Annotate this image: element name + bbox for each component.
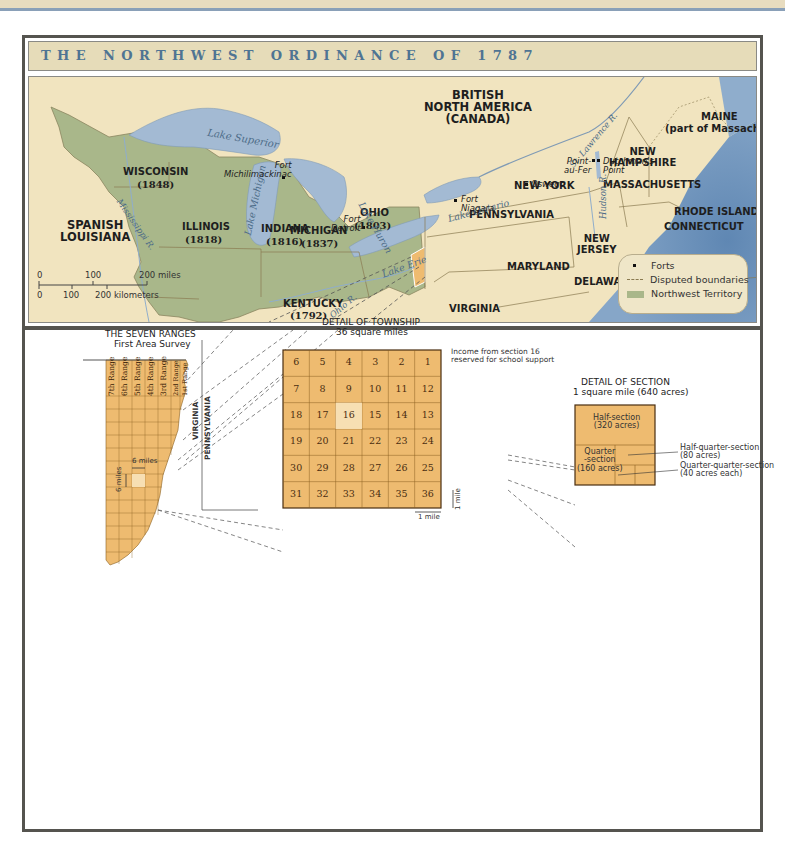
township-grid — [283, 350, 441, 508]
label-indiana: INDIANA — [261, 224, 309, 235]
range-label: 7th Range — [108, 357, 116, 396]
label-inset-virginia: VIRGINIA — [192, 402, 200, 440]
label-oswego: Oswego — [531, 180, 565, 189]
township-highlight — [132, 474, 145, 487]
scale-miles-200: 200 miles — [139, 271, 181, 280]
township-section-33: 33 — [336, 488, 362, 499]
township-section-28: 28 — [336, 462, 362, 473]
township-note: Income from section 16 reserved for scho… — [451, 348, 554, 364]
township-section-27: 27 — [362, 462, 388, 473]
label-maryland: MARYLAND — [507, 262, 570, 273]
township-section-29: 29 — [309, 462, 335, 473]
label-spanish-louisiana: SPANISH LOUISIANA — [60, 219, 130, 243]
label-illinois: ILLINOIS — [182, 222, 230, 233]
label-connecticut: CONNECTICUT — [664, 222, 744, 233]
label-inset-pennsylvania: PENNSYLVANIA — [204, 396, 212, 460]
label-dutchmans-point: Dutchman's Point — [603, 157, 654, 175]
label-fort-michilimackinac: Fort Michilimackinac — [224, 161, 292, 179]
map-figure: THE NORTHWEST ORDINANCE OF 1787 — [22, 35, 763, 832]
label-maine: MAINE — [701, 112, 738, 123]
section-subtitle: 1 square mile (640 acres) — [573, 388, 689, 397]
township-section-9: 9 — [336, 383, 362, 394]
township-section-32: 32 — [309, 488, 335, 499]
township-section-34: 34 — [362, 488, 388, 499]
township-section-25: 25 — [415, 462, 441, 473]
label-six-miles-h: 6 miles — [132, 458, 157, 465]
range-label: 5th Range — [134, 357, 142, 396]
township-section-3: 3 — [362, 356, 388, 367]
range-label: 2nd Range — [173, 360, 180, 396]
legend-forts-label: Forts — [651, 260, 675, 271]
label-massachusetts: MASSACHUSETTS — [603, 180, 701, 191]
legend-disputed-label: Disputed boundaries — [650, 274, 749, 285]
top-strip — [0, 0, 785, 11]
township-section-22: 22 — [362, 435, 388, 446]
survey-insets: THE SEVEN RANGES First Area Survey 7th R… — [28, 330, 757, 826]
township-section-36: 36 — [415, 488, 441, 499]
seven-ranges-subtitle: First Area Survey — [114, 340, 191, 349]
label-illinois-year: (1818) — [185, 235, 222, 246]
label-one-mile-v: 1 mile — [455, 488, 462, 510]
legend-disputed: Disputed boundaries — [627, 274, 749, 285]
map-legend: Forts Disputed boundaries Northwest Terr… — [618, 254, 748, 314]
township-section-16: 16 — [336, 409, 362, 420]
label-half-section: Half-section (320 acres) — [593, 414, 640, 431]
label-one-mile-h: 1 mile — [418, 514, 440, 521]
green-swatch-icon — [627, 291, 644, 298]
township-section-19: 19 — [283, 435, 309, 446]
scale-miles-0: 0 — [37, 271, 42, 280]
label-fort-niagara: Fort Niagara — [461, 195, 494, 213]
township-section-15: 15 — [362, 409, 388, 420]
scale-miles-100: 100 — [85, 271, 101, 280]
township-section-4: 4 — [336, 356, 362, 367]
township-section-7: 7 — [283, 383, 309, 394]
label-point-au-fer: Point- au-Fer — [564, 157, 591, 175]
township-section-31: 31 — [283, 488, 309, 499]
legend-territory: Northwest Territory — [627, 288, 742, 299]
township-section-23: 23 — [388, 435, 414, 446]
label-michigan-year: (1837) — [301, 239, 338, 250]
label-british-north-america: BRITISH NORTH AMERICA (CANADA) — [424, 89, 532, 125]
label-wisconsin: WISCONSIN — [123, 167, 188, 178]
dashed-line-icon — [627, 279, 643, 280]
fort-square-icon — [633, 264, 636, 267]
label-wisconsin-year: (1848) — [137, 180, 174, 191]
label-new-jersey: NEW JERSEY — [577, 234, 617, 255]
township-section-5: 5 — [309, 356, 335, 367]
township-section-30: 30 — [283, 462, 309, 473]
township-section-2: 2 — [388, 356, 414, 367]
point-au-fer-marker — [592, 159, 595, 162]
label-virginia: VIRGINIA — [449, 304, 500, 315]
township-section-24: 24 — [415, 435, 441, 446]
township-section-13: 13 — [415, 409, 441, 420]
legend-territory-label: Northwest Territory — [651, 288, 742, 299]
dutchmans-point-marker — [597, 159, 600, 162]
label-six-miles-v: 6 miles — [116, 467, 123, 492]
label-quarter-section: Quarter -section (160 acres) — [577, 448, 623, 473]
label-quarter-quarter-section: Quarter-quarter-section (40 acres each) — [680, 462, 774, 479]
township-section-1: 1 — [415, 356, 441, 367]
main-map: BRITISH NORTH AMERICA (CANADA) SPANISH L… — [28, 76, 757, 323]
label-half-quarter-section: Half-quarter-section (80 acres) — [680, 444, 759, 461]
scale-km-100: 100 — [63, 291, 79, 300]
legend-forts: Forts — [627, 260, 675, 271]
range-label: 1st Range — [182, 363, 189, 396]
township-section-8: 8 — [309, 383, 335, 394]
figure-title: THE NORTHWEST ORDINANCE OF 1787 — [41, 48, 539, 63]
label-rhode-island: RHODE ISLAND — [674, 207, 757, 218]
township-section-6: 6 — [283, 356, 309, 367]
fort-niagara-marker — [454, 199, 457, 202]
township-section-12: 12 — [415, 383, 441, 394]
township-section-18: 18 — [283, 409, 309, 420]
township-section-11: 11 — [388, 383, 414, 394]
range-label: 6th Range — [121, 357, 129, 396]
township-section-20: 20 — [309, 435, 335, 446]
township-section-10: 10 — [362, 383, 388, 394]
range-label: 4th Range — [147, 357, 155, 396]
township-subtitle: 36 square miles — [336, 328, 408, 337]
township-section-26: 26 — [388, 462, 414, 473]
label-fort-detroit: Fort Detroit — [331, 215, 361, 233]
township-section-35: 35 — [388, 488, 414, 499]
title-bar: THE NORTHWEST ORDINANCE OF 1787 — [28, 41, 757, 71]
township-section-21: 21 — [336, 435, 362, 446]
